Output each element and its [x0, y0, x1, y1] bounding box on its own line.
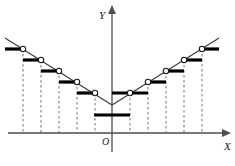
- open-circle-marker: [145, 79, 150, 84]
- x-axis-label: X: [223, 140, 232, 152]
- open-circle-marker: [20, 46, 25, 51]
- open-circle-marker: [74, 79, 79, 84]
- figure-container: Y X O: [0, 0, 235, 166]
- graph-canvas: Y X O: [0, 0, 235, 166]
- open-circle-marker: [163, 68, 168, 73]
- origin-label: O: [102, 136, 109, 147]
- open-circle-marker: [199, 46, 204, 51]
- open-circle-marker: [38, 57, 43, 62]
- open-circle-marker: [181, 57, 186, 62]
- open-circle-marker: [127, 90, 132, 95]
- open-circle-marker: [92, 90, 97, 95]
- y-axis-label: Y: [99, 9, 107, 21]
- axes-group: [8, 14, 222, 152]
- open-circle-marker: [56, 68, 61, 73]
